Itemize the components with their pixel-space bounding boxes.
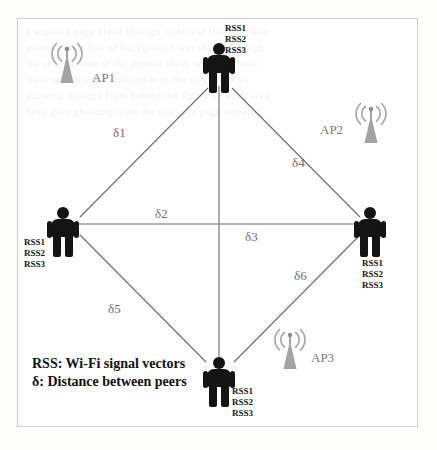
peer-head-icon [57, 207, 69, 219]
peer-leg-left [53, 236, 61, 257]
peer-torso [207, 55, 231, 73]
ap3-icon[interactable] [267, 326, 313, 372]
peer-torso [51, 219, 75, 237]
rss-line: RSS3 [362, 280, 383, 291]
rss-line: RSS1 [232, 386, 253, 397]
rss-line: RSS1 [225, 23, 246, 34]
peer-left[interactable] [46, 207, 80, 257]
ap2-icon[interactable] [348, 100, 394, 146]
distance-label-d4: δ4 [292, 155, 305, 171]
rss-line: RSS3 [232, 408, 253, 419]
rss-label-peer-left: RSS1 RSS2 RSS3 [24, 237, 45, 270]
distance-label-d5: δ5 [108, 301, 121, 317]
edge-d4 [232, 88, 360, 217]
rss-line: RSS3 [225, 45, 246, 56]
peer-leg-right [221, 72, 229, 93]
legend-line-rss: RSS: Wi-Fi signal vectors [32, 355, 187, 373]
edge-d1 [80, 88, 208, 217]
rss-label-peer-right: RSS1 RSS2 RSS3 [362, 258, 383, 291]
rss-line: RSS2 [24, 248, 45, 259]
peer-right[interactable] [353, 207, 387, 257]
distance-label-d6: δ6 [294, 268, 307, 284]
peer-leg-left [209, 386, 217, 407]
rss-label-peer-top: RSS1 RSS2 RSS3 [225, 23, 246, 56]
distance-label-d2: δ2 [155, 206, 168, 222]
peer-torso [358, 219, 382, 237]
peer-leg-right [65, 236, 73, 257]
peer-torso [207, 369, 231, 387]
distance-label-d3: δ3 [245, 229, 258, 245]
legend: RSS: Wi-Fi signal vectors δ: Distance be… [32, 355, 187, 391]
peer-head-icon [213, 43, 225, 55]
ap1-icon[interactable] [44, 40, 90, 86]
peer-leg-right [221, 386, 229, 407]
distance-label-d1: δ1 [113, 125, 126, 141]
rss-line: RSS3 [24, 259, 45, 270]
rss-line: RSS1 [362, 258, 383, 269]
edge-d5 [80, 235, 206, 362]
peer-leg-right [372, 236, 380, 257]
rss-line: RSS2 [225, 34, 246, 45]
peer-head-icon [364, 207, 376, 219]
peer-leg-left [209, 72, 217, 93]
rss-line: RSS2 [232, 397, 253, 408]
rss-line: RSS2 [362, 269, 383, 280]
ap1-label: AP1 [92, 70, 115, 86]
peer-leg-left [360, 236, 368, 257]
ap3-label: AP3 [311, 350, 334, 366]
legend-line-delta: δ: Distance between peers [32, 373, 187, 391]
diagram-canvas: a scanned page bleed through faint text … [0, 0, 437, 450]
ap2-label: AP2 [320, 122, 343, 138]
rss-line: RSS1 [24, 237, 45, 248]
peer-head-icon [213, 357, 225, 369]
rss-label-peer-bottom: RSS1 RSS2 RSS3 [232, 386, 253, 419]
peer-bottom[interactable] [202, 357, 236, 407]
